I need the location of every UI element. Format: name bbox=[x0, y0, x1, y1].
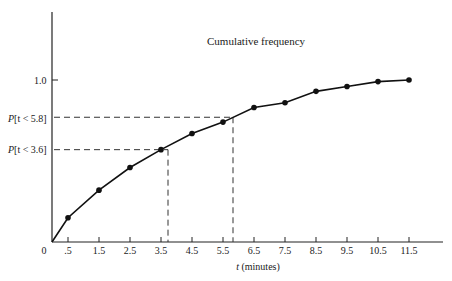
chart-title: Cumulative frequency bbox=[207, 36, 305, 47]
data-series bbox=[52, 77, 412, 242]
annotation-guides bbox=[54, 117, 233, 242]
data-point-marker bbox=[65, 215, 71, 221]
x-tick-label: .5 bbox=[64, 246, 72, 256]
x-tick-label: 0 bbox=[42, 246, 47, 256]
data-point-marker bbox=[189, 131, 195, 137]
x-tick-label: 8.5 bbox=[310, 246, 323, 256]
x-tick-label: 7.5 bbox=[279, 246, 292, 256]
x-axis-label: t (minutes) bbox=[236, 262, 280, 272]
data-line bbox=[52, 80, 409, 242]
x-tick-label: 6.5 bbox=[248, 246, 261, 256]
x-tick-label: 11.5 bbox=[400, 246, 417, 256]
data-point-marker bbox=[282, 100, 288, 106]
data-point-marker bbox=[375, 79, 381, 85]
x-tick-label: 2.5 bbox=[124, 246, 137, 256]
x-tick-label: 9.5 bbox=[341, 246, 354, 256]
x-tick-label: 5.5 bbox=[217, 246, 230, 256]
x-tick-label: 4.5 bbox=[186, 246, 199, 256]
cumulative-frequency-chart: Cumulative frequency 1.0 P[t < 5.8] P[t … bbox=[0, 0, 452, 281]
x-tick-label: 1.5 bbox=[93, 246, 106, 256]
data-point-marker bbox=[220, 119, 226, 125]
x-tick-label: 10.5 bbox=[369, 246, 387, 256]
data-point-marker bbox=[313, 89, 319, 95]
x-tick-label: 3.5 bbox=[155, 246, 168, 256]
data-point-marker bbox=[158, 147, 164, 153]
data-point-marker bbox=[251, 105, 257, 111]
annotation-label-p58: P[t < 5.8] bbox=[8, 114, 47, 124]
data-point-marker bbox=[96, 187, 102, 193]
y-tick-label-1: 1.0 bbox=[34, 76, 47, 86]
data-point-marker bbox=[406, 77, 412, 83]
data-point-marker bbox=[127, 165, 133, 171]
annotation-label-p36: P[t < 3.6] bbox=[8, 145, 47, 155]
data-point-marker bbox=[344, 84, 350, 90]
